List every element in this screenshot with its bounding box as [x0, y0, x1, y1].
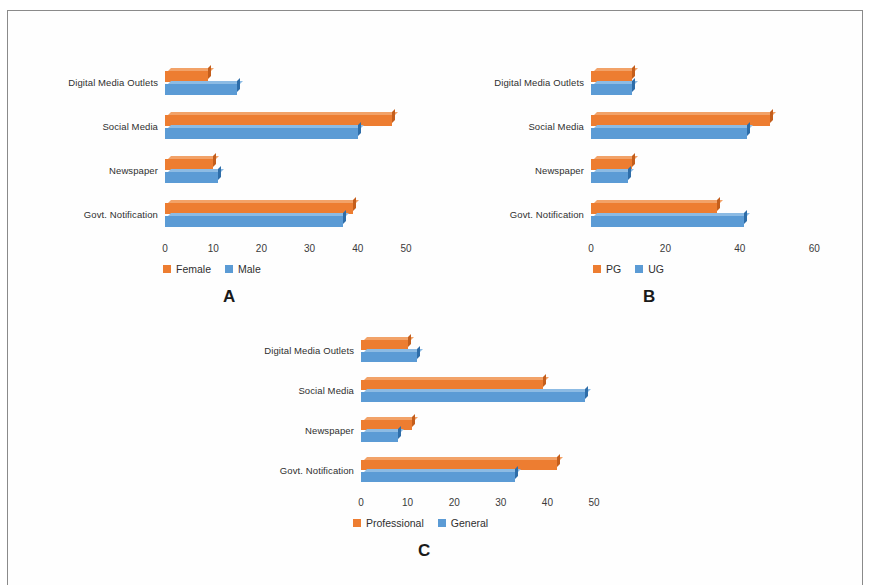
- bar-top-face: [594, 213, 750, 216]
- bar-side-face: [353, 197, 356, 211]
- x-axis-tick-label: 0: [346, 497, 376, 508]
- legend-item-ug[interactable]: UG: [635, 263, 664, 275]
- bar-side-face: [515, 466, 518, 479]
- bar-side-face: [392, 109, 395, 123]
- legend-item-professional[interactable]: Professional: [353, 517, 424, 529]
- bar-top-face: [364, 389, 591, 392]
- bar-side-face: [208, 65, 211, 79]
- bar-ug: [591, 216, 744, 227]
- plot-area: Govt. NotificationNewspaperSocial MediaD…: [218, 311, 648, 501]
- bar-top-face: [364, 349, 423, 352]
- bar-side-face: [585, 386, 588, 399]
- bar-face: [591, 216, 744, 227]
- bar-top-face: [364, 377, 549, 380]
- x-axis-tick-label: 0: [150, 243, 180, 254]
- bar-ug: [591, 172, 628, 183]
- legend-swatch-icon: [635, 265, 643, 273]
- x-axis-tick-label: 50: [391, 243, 421, 254]
- category-label: Social Media: [444, 121, 584, 132]
- bar-top-face: [594, 125, 753, 128]
- bar-top-face: [594, 112, 776, 115]
- bar-side-face: [237, 78, 240, 92]
- category-label: Govt. Notification: [214, 465, 354, 476]
- x-axis-tick-label: 40: [343, 243, 373, 254]
- x-axis-tick-label: 40: [532, 497, 562, 508]
- bar-male: [165, 84, 237, 95]
- bar-top-face: [168, 156, 219, 159]
- bar-top-face: [168, 112, 398, 115]
- chart-legend: PGUG: [593, 263, 664, 275]
- bar-face: [165, 84, 237, 95]
- legend-swatch-icon: [163, 265, 171, 273]
- x-axis-tick-label: 10: [393, 497, 423, 508]
- bar-side-face: [628, 166, 631, 180]
- legend-item-general[interactable]: General: [438, 517, 488, 529]
- bar-ug: [591, 84, 632, 95]
- legend-swatch-icon: [225, 265, 233, 273]
- legend-label: PG: [606, 263, 621, 275]
- bar-top-face: [168, 200, 359, 203]
- x-axis-tick-label: 20: [439, 497, 469, 508]
- x-axis-tick-label: 10: [198, 243, 228, 254]
- chart-panel-a: Govt. NotificationNewspaperSocial MediaD…: [8, 29, 438, 299]
- bar-side-face: [770, 109, 773, 123]
- bar-male: [165, 172, 218, 183]
- bar-general: [361, 392, 585, 402]
- bar-top-face: [168, 169, 224, 172]
- x-axis-tick-label: 30: [486, 497, 516, 508]
- bar-side-face: [412, 414, 415, 427]
- category-label: Newspaper: [214, 425, 354, 436]
- category-label: Digital Media Outlets: [18, 77, 158, 88]
- panel-letter-a: A: [223, 287, 235, 307]
- legend-label: Female: [176, 263, 211, 275]
- bar-general: [361, 352, 417, 362]
- legend-swatch-icon: [593, 265, 601, 273]
- bar-face: [165, 216, 343, 227]
- legend-item-female[interactable]: Female: [163, 263, 211, 275]
- bar-side-face: [543, 374, 546, 387]
- category-label: Govt. Notification: [18, 209, 158, 220]
- category-label: Digital Media Outlets: [444, 77, 584, 88]
- bar-top-face: [364, 417, 418, 420]
- bar-side-face: [398, 426, 401, 439]
- bar-top-face: [364, 337, 414, 340]
- x-axis-tick-label: 0: [576, 243, 606, 254]
- x-axis-tick-label: 30: [295, 243, 325, 254]
- bar-face: [361, 432, 398, 442]
- bar-side-face: [218, 166, 221, 180]
- bar-male: [165, 216, 343, 227]
- legend-label: UG: [648, 263, 664, 275]
- x-axis-tick-label: 20: [246, 243, 276, 254]
- bar-male: [165, 128, 358, 139]
- chart-legend: ProfessionalGeneral: [353, 517, 488, 529]
- figure-frame: Govt. NotificationNewspaperSocial MediaD…: [7, 10, 863, 585]
- x-axis-tick-label: 40: [725, 243, 755, 254]
- legend-item-male[interactable]: Male: [225, 263, 261, 275]
- bar-face: [165, 128, 358, 139]
- bar-general: [361, 472, 515, 482]
- x-axis-tick-label: 50: [579, 497, 609, 508]
- bar-top-face: [364, 469, 521, 472]
- bar-side-face: [213, 153, 216, 167]
- legend-item-pg[interactable]: PG: [593, 263, 621, 275]
- bar-top-face: [364, 457, 563, 460]
- plot-area: Govt. NotificationNewspaperSocial MediaD…: [428, 29, 858, 247]
- x-axis-tick-label: 20: [650, 243, 680, 254]
- panel-letter-b: B: [643, 287, 655, 307]
- legend-label: Male: [238, 263, 261, 275]
- bar-side-face: [408, 334, 411, 347]
- bar-top-face: [168, 213, 349, 216]
- plot-area: Govt. NotificationNewspaperSocial MediaD…: [8, 29, 438, 247]
- bar-general: [361, 432, 398, 442]
- bar-face: [361, 352, 417, 362]
- bar-top-face: [168, 125, 364, 128]
- chart-legend: FemaleMale: [163, 263, 261, 275]
- bar-ug: [591, 128, 747, 139]
- legend-swatch-icon: [438, 519, 446, 527]
- bar-face: [591, 84, 632, 95]
- bar-top-face: [168, 81, 243, 84]
- legend-label: General: [451, 517, 488, 529]
- bar-face: [591, 172, 628, 183]
- legend-swatch-icon: [353, 519, 361, 527]
- category-label: Digital Media Outlets: [214, 345, 354, 356]
